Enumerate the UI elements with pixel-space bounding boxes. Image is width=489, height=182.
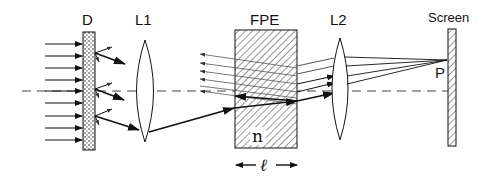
screen-label: Screen [428,10,469,25]
scattered-rays [95,47,125,125]
diffuser-label: D [82,11,93,28]
main-ray-to-fpe [149,108,234,132]
incoming-rays [45,44,82,140]
point-p-label: P [435,64,445,81]
lens-l2 [332,38,348,140]
diffuser-plate [83,32,95,150]
main-ray-to-l1 [95,116,139,130]
optics-diagram: D L1 n FPE L2 [0,0,489,182]
focused-rays [345,57,447,84]
lens-l2-label: L2 [330,11,347,28]
screen [448,29,456,146]
thickness-label: ℓ [260,155,267,175]
refractive-index-label: n [252,126,263,146]
lens-l1 [137,40,154,142]
lens-l1-label: L1 [135,11,152,28]
fpe-label: FPE [250,11,279,28]
transmitted-rays [297,58,334,101]
